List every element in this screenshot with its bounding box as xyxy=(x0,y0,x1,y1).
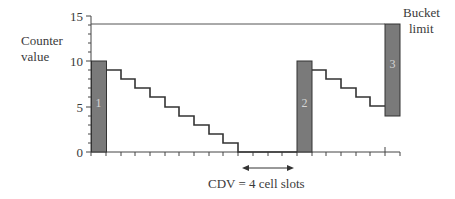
y-axis-label-line1: Counter xyxy=(21,33,63,48)
y-tick-10: 10 xyxy=(63,55,83,68)
counter-staircase-2 xyxy=(312,70,385,106)
y-tick-15: 15 xyxy=(63,10,83,23)
y-axis xyxy=(86,16,91,152)
cdv-label: CDV = 4 cell slots xyxy=(208,176,305,191)
leaky-bucket-diagram xyxy=(0,0,455,199)
y-tick-5: 5 xyxy=(63,101,83,114)
cell-bar-3-label: 3 xyxy=(385,58,400,70)
counter-staircase-1 xyxy=(106,70,297,152)
cell-bar-1-label: 1 xyxy=(91,97,106,109)
bucket-limit-label-line1: Bucket xyxy=(403,5,440,20)
y-tick-0: 0 xyxy=(63,146,83,159)
bucket-limit-label-line2: limit xyxy=(409,21,434,36)
cell-bar-2-label: 2 xyxy=(297,97,312,109)
y-axis-label-line2: value xyxy=(21,49,49,64)
cdv-arrow xyxy=(242,165,294,171)
